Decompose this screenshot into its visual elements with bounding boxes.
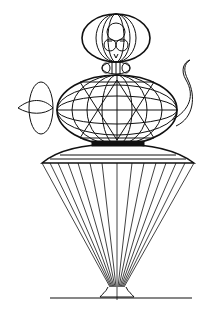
neck-collar	[102, 62, 130, 74]
torso-ellipsoid	[57, 75, 177, 145]
skirt-dome	[42, 144, 194, 163]
figurine-drawing	[0, 0, 209, 314]
left-disc-arm	[18, 82, 53, 134]
skirt-cone	[42, 163, 194, 300]
head	[82, 14, 150, 62]
